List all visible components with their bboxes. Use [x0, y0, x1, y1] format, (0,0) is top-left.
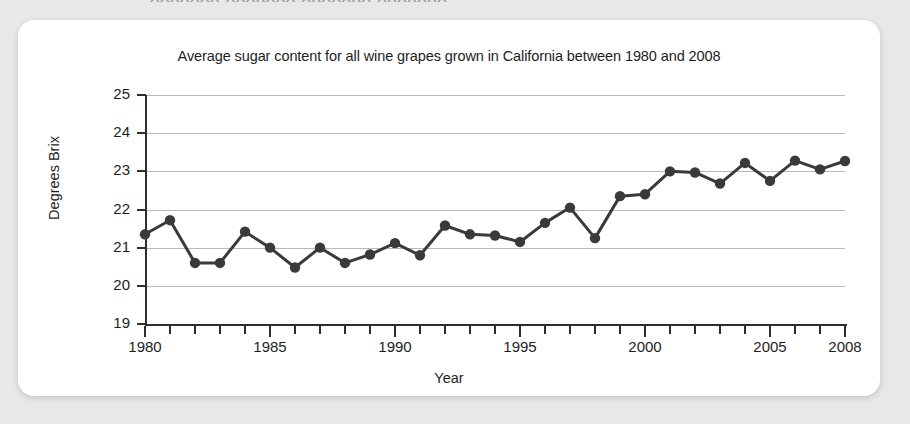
- x-tick-mark: [469, 326, 471, 334]
- data-point: [490, 230, 500, 240]
- x-tick-mark: [794, 326, 796, 334]
- y-tick-mark: [137, 132, 146, 134]
- data-point: [590, 233, 600, 243]
- data-point: [215, 258, 225, 268]
- x-tick-mark: [594, 326, 596, 334]
- data-point: [290, 262, 300, 272]
- x-tick-mark: [569, 326, 571, 334]
- x-tick-label: 2008: [810, 338, 880, 355]
- page-bleed-text: xxxxxxx xxxxxxx xxxxxxx xxxxxxx: [0, 0, 910, 14]
- x-tick-mark: [494, 326, 496, 334]
- x-tick-mark: [769, 326, 771, 337]
- figure-card: Average sugar content for all wine grape…: [18, 20, 880, 396]
- x-tick-mark: [619, 326, 621, 334]
- data-point: [715, 178, 725, 188]
- x-tick-mark: [269, 326, 271, 337]
- x-tick-label: 2005: [735, 338, 805, 355]
- data-point: [340, 258, 350, 268]
- x-tick-label: 1985: [235, 338, 305, 355]
- data-point: [240, 226, 250, 236]
- x-tick-mark: [394, 326, 396, 337]
- x-tick-label: 1980: [110, 338, 180, 355]
- x-tick-label: 1990: [360, 338, 430, 355]
- data-point: [415, 250, 425, 260]
- data-point: [740, 158, 750, 168]
- x-tick-mark: [144, 326, 146, 337]
- x-tick-mark: [344, 326, 346, 334]
- x-tick-mark: [644, 326, 646, 337]
- data-point: [840, 156, 850, 166]
- x-tick-mark: [294, 326, 296, 334]
- x-tick-mark: [744, 326, 746, 334]
- data-point: [390, 238, 400, 248]
- x-tick-mark: [319, 326, 321, 334]
- x-tick-mark: [219, 326, 221, 334]
- data-point: [365, 249, 375, 259]
- data-point: [540, 218, 550, 228]
- data-point: [265, 242, 275, 252]
- x-tick-mark: [244, 326, 246, 334]
- data-point: [790, 155, 800, 165]
- y-tick-mark: [137, 170, 146, 172]
- data-point: [165, 215, 175, 225]
- x-tick-mark: [419, 326, 421, 334]
- x-tick-mark: [519, 326, 521, 337]
- x-tick-mark: [194, 326, 196, 334]
- x-tick-mark: [444, 326, 446, 334]
- data-point: [515, 237, 525, 247]
- data-point: [765, 176, 775, 186]
- data-point: [615, 191, 625, 201]
- x-tick-mark: [719, 326, 721, 334]
- y-tick-mark: [137, 285, 146, 287]
- y-tick-mark: [137, 323, 146, 325]
- data-point: [640, 189, 650, 199]
- page-bleed-label: xxxxxxx xxxxxxx xxxxxxx xxxxxxx: [150, 0, 447, 7]
- data-point: [690, 167, 700, 177]
- x-tick-mark: [819, 326, 821, 334]
- x-tick-mark: [369, 326, 371, 334]
- data-point: [140, 229, 150, 239]
- x-tick-mark: [694, 326, 696, 334]
- data-point: [665, 166, 675, 176]
- data-point: [465, 229, 475, 239]
- series-markers: [140, 155, 850, 272]
- y-tick-mark: [137, 94, 146, 96]
- x-tick-label: 1995: [485, 338, 555, 355]
- x-tick-mark: [669, 326, 671, 334]
- data-point: [565, 202, 575, 212]
- x-tick-label: 2000: [610, 338, 680, 355]
- data-point: [315, 242, 325, 252]
- data-point: [815, 164, 825, 174]
- series-line: [145, 161, 845, 268]
- data-point: [190, 258, 200, 268]
- x-tick-mark: [544, 326, 546, 334]
- x-tick-mark: [844, 326, 846, 337]
- x-tick-mark: [169, 326, 171, 334]
- y-tick-mark: [137, 247, 146, 249]
- y-tick-mark: [137, 209, 146, 211]
- data-point: [440, 220, 450, 230]
